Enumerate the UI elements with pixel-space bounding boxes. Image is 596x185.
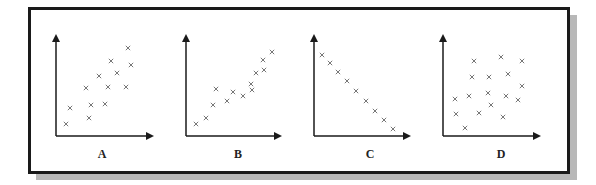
data-point-marker [261, 58, 265, 62]
data-point-marker [320, 53, 324, 57]
data-point-marker [129, 63, 133, 67]
data-point-marker [486, 91, 490, 95]
panel-label-a: A [98, 147, 107, 162]
data-point-marker [463, 126, 467, 130]
data-point-marker [328, 61, 332, 65]
data-point-marker [499, 55, 503, 59]
panel-label-b: B [234, 147, 242, 162]
data-point-marker [382, 118, 386, 122]
data-point-marker [250, 88, 254, 92]
data-point-marker [68, 106, 72, 110]
data-point-marker [472, 59, 476, 63]
data-point-marker [489, 103, 493, 107]
data-point-marker [477, 111, 481, 115]
scatter-panel-d [443, 36, 539, 136]
data-point-marker [214, 87, 218, 91]
scatter-plots [0, 0, 596, 185]
data-point-marker [204, 116, 208, 120]
data-point-marker [520, 59, 524, 63]
data-point-marker [211, 103, 215, 107]
data-point-marker [249, 82, 253, 86]
data-point-marker [115, 71, 119, 75]
data-point-marker [391, 127, 395, 131]
data-point-marker [241, 94, 245, 98]
data-point-marker [103, 102, 107, 106]
data-point-marker [453, 97, 457, 101]
scatter-panel-b [186, 36, 280, 136]
panel-label-d: D [497, 147, 506, 162]
data-point-marker [89, 103, 93, 107]
data-point-marker [520, 84, 524, 88]
data-point-marker [506, 72, 510, 76]
data-point-marker [504, 94, 508, 98]
data-point-marker [97, 74, 101, 78]
data-point-marker [262, 68, 266, 72]
panel-label-c: C [366, 147, 375, 162]
data-point-marker [124, 85, 128, 89]
data-point-marker [345, 79, 349, 83]
data-point-marker [487, 75, 491, 79]
data-point-marker [454, 112, 458, 116]
data-point-marker [470, 75, 474, 79]
data-point-marker [109, 59, 113, 63]
data-point-marker [516, 98, 520, 102]
data-point-marker [64, 122, 68, 126]
data-point-marker [373, 109, 377, 113]
data-point-marker [254, 71, 258, 75]
data-point-marker [194, 122, 198, 126]
data-point-marker [225, 99, 229, 103]
scatter-panel-a [56, 36, 152, 136]
data-point-marker [270, 50, 274, 54]
data-point-marker [84, 86, 88, 90]
data-point-marker [336, 70, 340, 74]
data-point-marker [231, 90, 235, 94]
data-point-marker [106, 85, 110, 89]
data-point-marker [126, 46, 130, 50]
data-point-marker [364, 99, 368, 103]
data-point-marker [354, 89, 358, 93]
scatter-panel-c [314, 36, 409, 136]
data-point-marker [467, 94, 471, 98]
data-point-marker [501, 115, 505, 119]
data-point-marker [87, 116, 91, 120]
